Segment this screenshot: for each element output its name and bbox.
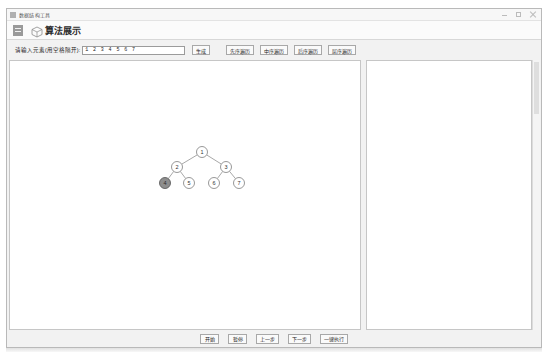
window-title: 数据结构工具 bbox=[19, 11, 50, 18]
close-icon[interactable] bbox=[529, 11, 536, 18]
playback-controls: 开始 暂停 上一步 下一步 一键执行 bbox=[7, 330, 541, 347]
maximize-icon[interactable] bbox=[515, 11, 522, 18]
previous-step-button[interactable]: 上一步 bbox=[256, 334, 279, 344]
tree-node-label: 1 bbox=[200, 149, 203, 155]
tree-edge bbox=[168, 171, 173, 178]
tree-node[interactable]: 3 bbox=[221, 162, 232, 173]
tree-edge bbox=[180, 171, 185, 178]
start-button[interactable]: 开始 bbox=[200, 334, 219, 344]
levelorder-traversal-button[interactable]: 层序遍历 bbox=[328, 45, 356, 55]
traversal-output-panel[interactable] bbox=[366, 60, 532, 330]
postorder-traversal-button[interactable]: 后序遍历 bbox=[294, 45, 322, 55]
minimize-icon[interactable] bbox=[501, 11, 508, 18]
next-step-button[interactable]: 下一步 bbox=[288, 334, 311, 344]
elements-input[interactable] bbox=[82, 46, 185, 55]
generate-button[interactable]: 生成 bbox=[192, 45, 210, 55]
application-window: 数据结构工具 算法展示 请输入元素(用空格隔开): 生成 先序遍历 中序遍历 后… bbox=[6, 8, 542, 348]
title-bar: 数据结构工具 bbox=[7, 9, 541, 21]
elements-input-label: 请输入元素(用空格隔开): bbox=[15, 46, 80, 54]
content-area: 1234567 开始 暂停 上一步 下一步 一键执行 bbox=[7, 60, 541, 347]
vertical-scrollbar-thumb[interactable] bbox=[534, 62, 539, 114]
toolbar: 请输入元素(用空格隔开): 生成 先序遍历 中序遍历 后序遍历 层序遍历 bbox=[7, 40, 541, 60]
tree-node-label: 6 bbox=[212, 180, 215, 186]
app-title: 算法展示 bbox=[45, 24, 81, 37]
tree-node-label: 7 bbox=[237, 180, 240, 186]
preorder-traversal-button[interactable]: 先序遍历 bbox=[226, 45, 254, 55]
tree-node[interactable]: 4 bbox=[160, 178, 171, 189]
tree-node[interactable]: 1 bbox=[197, 147, 208, 158]
window-controls bbox=[501, 11, 538, 18]
tree-node[interactable]: 2 bbox=[172, 162, 183, 173]
tree-node-label: 2 bbox=[175, 164, 178, 170]
run-all-button[interactable]: 一键执行 bbox=[320, 334, 348, 344]
tree-node[interactable]: 5 bbox=[184, 178, 195, 189]
traversal-button-group: 先序遍历 中序遍历 后序遍历 层序遍历 bbox=[226, 45, 356, 55]
hamburger-menu-icon[interactable] bbox=[13, 25, 23, 36]
tree-edge bbox=[182, 155, 198, 164]
tree-canvas-panel[interactable]: 1234567 bbox=[9, 60, 361, 330]
inorder-traversal-button[interactable]: 中序遍历 bbox=[260, 45, 288, 55]
tree-node-label: 3 bbox=[224, 164, 227, 170]
pause-button[interactable]: 暂停 bbox=[228, 334, 247, 344]
tree-node-label: 4 bbox=[163, 180, 166, 186]
tree-node[interactable]: 7 bbox=[234, 178, 245, 189]
tree-node-label: 5 bbox=[187, 180, 190, 186]
binary-tree-visualization: 1234567 bbox=[10, 61, 361, 330]
window-drop-shadow bbox=[6, 348, 542, 352]
tree-edge bbox=[207, 155, 222, 164]
tree-edge bbox=[217, 171, 222, 178]
vertical-scrollbar[interactable] bbox=[532, 60, 540, 330]
window-app-icon bbox=[10, 12, 16, 18]
cube-logo-icon bbox=[31, 24, 43, 36]
app-header: 算法展示 bbox=[7, 21, 541, 40]
tree-edge bbox=[229, 171, 235, 178]
tree-node[interactable]: 6 bbox=[209, 178, 220, 189]
tree-node-group: 1234567 bbox=[160, 147, 245, 189]
